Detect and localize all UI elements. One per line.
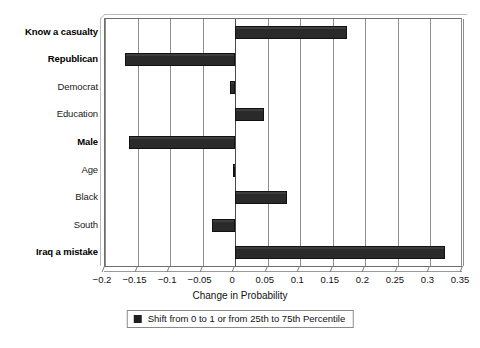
- bar: [235, 108, 264, 121]
- gridline: [365, 19, 366, 266]
- x-axis-tick-label: −0.05: [188, 274, 212, 285]
- x-axis-tick-label: 0.2: [356, 274, 369, 285]
- chart-legend: Shift from 0 to 1 or from 25th to 75th P…: [127, 310, 354, 328]
- y-axis-label: Age: [0, 165, 98, 175]
- gridline: [300, 19, 301, 266]
- y-axis-label: Republican: [0, 54, 98, 64]
- zero-line: [235, 19, 236, 266]
- bar: [233, 164, 236, 177]
- gridline: [268, 19, 269, 266]
- y-axis-label: Know a casualty: [0, 27, 98, 37]
- y-axis-category-labels: Know a casualtyRepublicanDemocratEducati…: [0, 18, 98, 266]
- x-axis-tick-label: 0.15: [321, 274, 340, 285]
- x-axis-title: Change in Probability: [0, 290, 480, 301]
- bar: [230, 81, 235, 94]
- y-axis-label: Iraq a mistake: [0, 247, 98, 257]
- bar: [129, 136, 235, 149]
- gridline: [333, 19, 334, 266]
- y-axis-label: Education: [0, 109, 98, 119]
- x-axis-tick-label: 0.25: [386, 274, 405, 285]
- x-axis-tick-label: −0.1: [158, 274, 177, 285]
- x-axis-tick-label: −0.15: [123, 274, 147, 285]
- gridline: [463, 19, 464, 266]
- legend-swatch-icon: [134, 315, 142, 323]
- x-axis-tick-label: 0.3: [421, 274, 434, 285]
- horizontal-bar-chart: Know a casualtyRepublicanDemocratEducati…: [0, 0, 480, 348]
- x-axis-tick-label: 0.35: [451, 274, 470, 285]
- bar: [235, 246, 445, 259]
- bar: [125, 53, 236, 66]
- y-axis-label: Male: [0, 137, 98, 147]
- bar: [235, 191, 286, 204]
- x-axis-tick-label: 0.1: [291, 274, 304, 285]
- y-axis-label: South: [0, 220, 98, 230]
- legend-label: Shift from 0 to 1 or from 25th to 75th P…: [148, 313, 346, 324]
- gridline: [430, 19, 431, 266]
- x-axis-line: [104, 266, 462, 267]
- gridline: [105, 19, 106, 266]
- bar: [235, 26, 347, 39]
- gridline: [398, 19, 399, 266]
- plot-area: [104, 18, 462, 266]
- x-axis-tick-label: −0.2: [93, 274, 112, 285]
- bar: [212, 219, 235, 232]
- x-axis-tick-label: 0.05: [255, 274, 274, 285]
- x-axis-tick-label: 0: [230, 274, 235, 285]
- x-axis-line-lower: [104, 271, 462, 272]
- y-axis-label: Democrat: [0, 82, 98, 92]
- y-axis-label: Black: [0, 192, 98, 202]
